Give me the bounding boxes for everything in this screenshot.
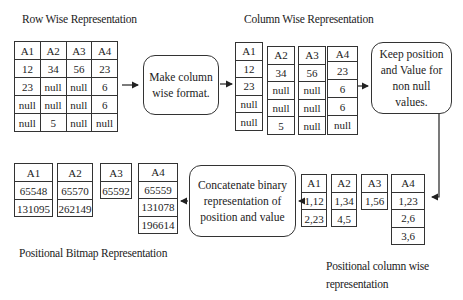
flow-arrows [0, 0, 463, 300]
arrow-keep-position-to-positional [432, 114, 439, 197]
